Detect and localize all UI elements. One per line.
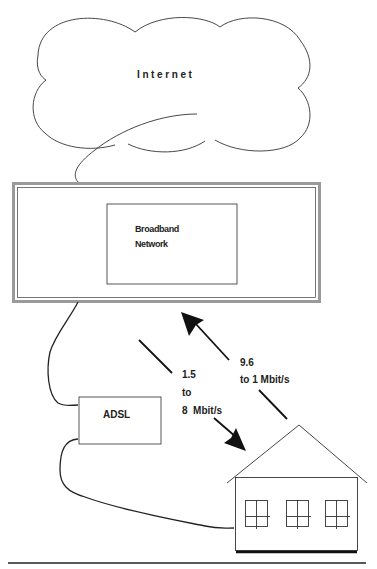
adsl-box <box>79 397 161 444</box>
downstream-line-3: 8 Mbit/s <box>182 402 222 420</box>
downstream-line-2: to <box>182 384 222 402</box>
upstream-rate-label: 9.6 to 1 Mbit/s <box>240 354 289 388</box>
network-line: Network <box>135 237 179 252</box>
upstream-line-1: 9.6 <box>240 354 289 371</box>
broadband-line: Broadband <box>135 222 179 237</box>
adsl-house-cable <box>60 439 234 528</box>
upstream-line-2: to 1 Mbit/s <box>240 371 289 388</box>
downstream-line-1: 1.5 <box>182 366 222 384</box>
internet-label: Internet <box>137 69 194 80</box>
downstream-rate-label: 1.5 to 8 Mbit/s <box>182 366 222 420</box>
broadband-network-label: Broadband Network <box>135 222 179 252</box>
network-adsl-cable <box>48 302 78 406</box>
internet-cloud <box>33 17 310 151</box>
adsl-label: ADSL <box>103 409 130 420</box>
house <box>227 425 367 552</box>
diagram-canvas <box>0 0 377 569</box>
